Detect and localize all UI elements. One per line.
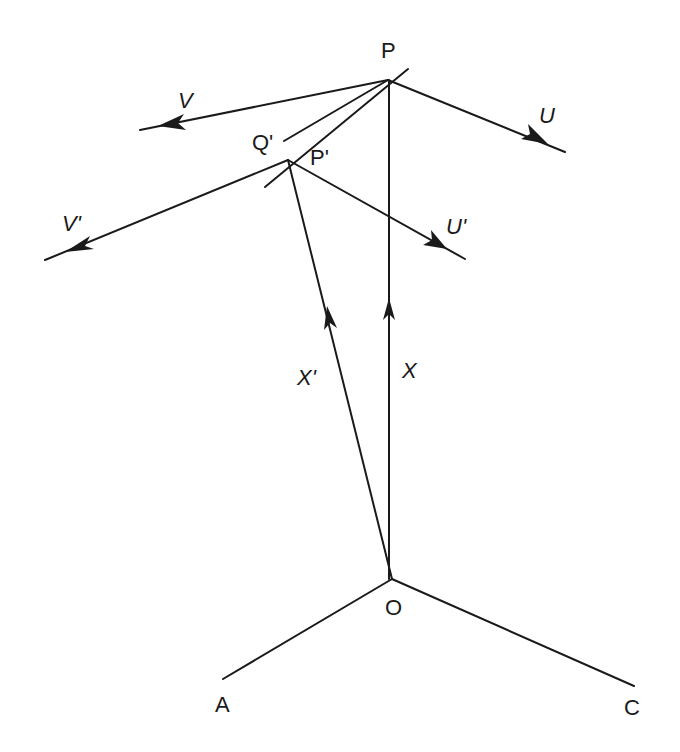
label-X-prime: X' [296, 365, 317, 390]
label-Q-prime: Q' [252, 130, 273, 155]
vector-U-prime-arrowhead-icon [423, 230, 447, 249]
line-O-C [392, 579, 634, 686]
label-U-prime: U' [446, 214, 467, 239]
label-V-prime: V' [62, 211, 82, 236]
label-X: X [401, 358, 418, 383]
label-A: A [215, 692, 230, 717]
label-V: V [178, 88, 195, 113]
label-U: U [539, 103, 555, 128]
line-P-Q-prime [284, 80, 388, 141]
label-P-prime: P' [310, 145, 329, 170]
vector-V-prime-arrowhead-icon [65, 236, 94, 252]
line-O-A [223, 579, 392, 679]
label-P: P [381, 38, 396, 63]
line-P-P-prime [265, 69, 408, 187]
label-O: O [385, 595, 402, 620]
label-C: C [624, 695, 640, 720]
geometry-diagram: P Q' P' O A C V U V' U' X X' [0, 0, 680, 752]
